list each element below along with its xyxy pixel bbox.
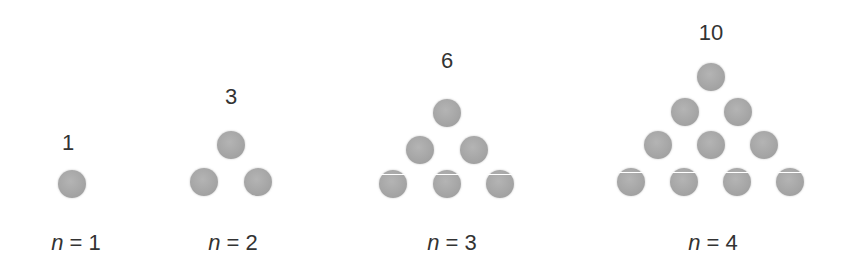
caption: n = 1 bbox=[51, 232, 101, 254]
ball bbox=[644, 131, 672, 159]
ball bbox=[433, 170, 461, 198]
ball bbox=[697, 63, 725, 91]
caption-value: = 3 bbox=[439, 230, 476, 255]
ball bbox=[617, 168, 645, 196]
caption-value: = 1 bbox=[63, 230, 100, 255]
caption: n = 2 bbox=[208, 232, 258, 254]
ball bbox=[724, 98, 752, 126]
ball bbox=[190, 168, 218, 196]
caption-value: = 4 bbox=[700, 230, 737, 255]
caption: n = 4 bbox=[688, 232, 738, 254]
ball bbox=[697, 131, 725, 159]
ball bbox=[244, 168, 272, 196]
caption-variable: n bbox=[688, 230, 700, 255]
ball bbox=[460, 136, 488, 164]
ball bbox=[486, 170, 514, 198]
ball bbox=[671, 98, 699, 126]
count-label: 6 bbox=[441, 50, 453, 72]
count-label: 1 bbox=[62, 132, 74, 154]
ball bbox=[433, 99, 461, 127]
ball bbox=[750, 131, 778, 159]
ball bbox=[58, 170, 86, 198]
ball bbox=[776, 168, 804, 196]
count-label: 3 bbox=[225, 86, 237, 108]
count-label: 10 bbox=[699, 22, 723, 44]
caption-variable: n bbox=[427, 230, 439, 255]
caption-value: = 2 bbox=[220, 230, 257, 255]
caption: n = 3 bbox=[427, 232, 477, 254]
ball bbox=[406, 136, 434, 164]
ball bbox=[723, 168, 751, 196]
ball bbox=[670, 168, 698, 196]
ball bbox=[217, 131, 245, 159]
caption-variable: n bbox=[208, 230, 220, 255]
ball bbox=[379, 170, 407, 198]
triangular-numbers-diagram: 1 n = 1 3 n = 2 6 n = 3 10 bbox=[0, 0, 844, 275]
caption-variable: n bbox=[51, 230, 63, 255]
